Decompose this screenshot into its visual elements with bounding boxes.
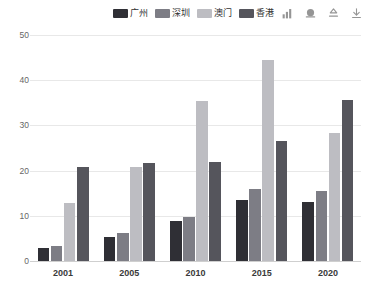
chart-top-bar: 广州 深圳 澳门 香港 (0, 0, 370, 26)
x-axis-tick-label: 2015 (252, 268, 272, 278)
x-axis-tick-label: 2020 (318, 268, 338, 278)
y-axis-tick-label: 50 (20, 30, 29, 40)
x-axis-tick-label: 2005 (119, 268, 139, 278)
legend-label-guangzhou: 广州 (130, 7, 148, 19)
x-axis-tick-label: 2001 (53, 268, 73, 278)
magic-type-bar-icon[interactable] (281, 7, 294, 20)
legend-swatch-guangzhou (113, 9, 128, 18)
legend-label-macau: 澳门 (214, 7, 232, 19)
legend-swatch-macau (197, 9, 212, 18)
bar-chart-widget: 广州 深圳 澳门 香港 (0, 0, 370, 289)
legend-item-shenzhen[interactable]: 深圳 (155, 6, 190, 20)
restore-icon[interactable] (327, 7, 340, 20)
y-axis-tick-label: 20 (20, 166, 29, 176)
legend-label-hongkong: 香港 (256, 7, 274, 19)
save-image-icon[interactable] (350, 7, 363, 20)
y-axis-tick-label: 30 (20, 120, 29, 130)
axis-layer: 0102030405020012005201020152020 (0, 26, 370, 289)
legend-item-guangzhou[interactable]: 广州 (113, 6, 148, 20)
x-axis-tick-label: 2010 (185, 268, 205, 278)
y-axis-tick-label: 10 (20, 211, 29, 221)
legend-item-macau[interactable]: 澳门 (197, 6, 232, 20)
chart-toolbox (281, 5, 363, 21)
legend-swatch-hongkong (239, 9, 254, 18)
y-axis-tick-label: 0 (24, 256, 29, 266)
y-axis-tick-label: 40 (20, 75, 29, 85)
data-view-icon[interactable] (304, 7, 317, 20)
chart-plot-area: 0102030405020012005201020152020 (0, 26, 370, 289)
chart-legend: 广州 深圳 澳门 香港 (113, 6, 274, 20)
legend-swatch-shenzhen (155, 9, 170, 18)
legend-item-hongkong[interactable]: 香港 (239, 6, 274, 20)
legend-label-shenzhen: 深圳 (172, 7, 190, 19)
x-axis-line (30, 261, 361, 262)
